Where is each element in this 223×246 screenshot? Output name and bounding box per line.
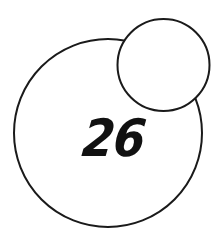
number-label: 26: [80, 104, 147, 171]
small-circle: [118, 19, 210, 111]
